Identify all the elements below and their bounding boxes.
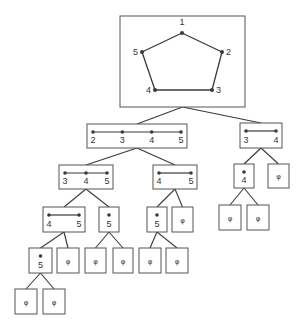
vertex-dot	[39, 254, 43, 258]
tree-link	[157, 232, 177, 248]
vertex-label: 5	[106, 219, 111, 229]
tree-node-path: 45	[43, 207, 85, 232]
empty-set-label: φ	[93, 258, 98, 266]
pentagon-vertex	[153, 88, 157, 92]
tree-node-path: 345	[59, 165, 113, 189]
vertex-label: 5	[38, 260, 43, 270]
empty-set-label: φ	[175, 258, 180, 266]
vertex-label: 4	[273, 135, 278, 145]
tree-node-empty: φ	[219, 205, 241, 230]
tree-node-empty: φ	[43, 289, 65, 314]
node-box	[87, 124, 187, 148]
tree-node-empty: φ	[139, 248, 161, 273]
empty-set-label: φ	[121, 258, 126, 266]
vertex-label: 4	[241, 175, 246, 185]
tree-link	[175, 189, 183, 207]
vertex-label: 5	[178, 135, 183, 145]
pentagon-vertex-label: 3	[216, 85, 221, 95]
tree-node-empty: φ	[57, 248, 79, 273]
node-box	[120, 16, 245, 107]
vertex-dot	[107, 213, 111, 217]
vertex-label: 5	[104, 176, 109, 186]
vertex-dot	[244, 129, 248, 133]
tree-link	[109, 232, 123, 248]
tree-node-point: 5	[147, 207, 167, 232]
tree-node-path: 45	[153, 165, 197, 189]
vertex-dot	[242, 170, 246, 174]
tree-link	[137, 148, 175, 165]
tree-link	[41, 273, 55, 289]
tree-link	[64, 189, 86, 207]
tree-node-point: 5	[99, 207, 119, 232]
vertex-dot	[150, 130, 154, 134]
vertex-label: 3	[120, 135, 125, 145]
vertex-label: 4	[46, 219, 51, 229]
empty-set-label: φ	[148, 258, 153, 266]
tree-node-empty: φ	[113, 248, 133, 273]
tree-node-empty: φ	[172, 207, 193, 232]
vertex-dot	[63, 171, 67, 175]
tree-node-path: 34	[240, 123, 282, 148]
tree-link	[41, 232, 65, 248]
tree-node-empty: φ	[15, 289, 37, 314]
decomposition-tree-diagram: 234534345454φ4555φφφ5φφφφφφφ 12345	[0, 0, 305, 331]
vertex-label: 4	[149, 135, 154, 145]
vertex-dot	[91, 130, 95, 134]
pentagon-vertex	[180, 31, 184, 35]
empty-set-label: φ	[52, 299, 57, 307]
tree-node-point: 4	[234, 164, 254, 188]
vertex-dot	[121, 130, 125, 134]
vertex-label: 5	[154, 219, 159, 229]
empty-set-label: φ	[276, 173, 281, 181]
tree-node-empty: φ	[268, 164, 289, 188]
pentagon-vertex-label: 1	[179, 17, 184, 27]
vertex-dot	[157, 171, 161, 175]
vertex-label: 4	[156, 176, 161, 186]
tree-link	[183, 107, 262, 123]
tree-link	[86, 189, 109, 207]
pentagon-vertex	[140, 50, 144, 54]
tree-link	[157, 189, 175, 207]
pentagon-vertex-label: 4	[146, 85, 151, 95]
tree-link	[96, 232, 110, 248]
empty-set-label: φ	[24, 299, 29, 307]
empty-set-label: φ	[256, 215, 261, 223]
vertex-dot	[274, 129, 278, 133]
tree-link	[261, 148, 279, 164]
vertex-dot	[47, 213, 51, 217]
vertex-label: 4	[83, 176, 88, 186]
vertex-dot	[77, 213, 81, 217]
tree-node-point: 5	[29, 248, 52, 273]
pentagon-vertex	[210, 88, 214, 92]
pentagon-vertex-label: 2	[226, 47, 231, 57]
tree-link	[137, 107, 183, 124]
pentagon-vertex-label: 5	[133, 47, 138, 57]
tree-link	[244, 148, 261, 164]
tree-nodes: 234534345454φ4555φφφ5φφφφφφφ	[15, 16, 289, 314]
vertex-label: 2	[90, 135, 95, 145]
tree-link	[64, 232, 68, 248]
vertex-dot	[179, 130, 183, 134]
empty-set-label: φ	[66, 258, 71, 266]
tree-node-empty: φ	[85, 248, 106, 273]
vertex-label: 3	[243, 135, 248, 145]
vertex-dot	[189, 171, 193, 175]
tree-node-path: 2345	[87, 124, 187, 148]
vertex-dot	[84, 171, 88, 175]
vertex-label: 3	[62, 176, 67, 186]
vertex-dot	[105, 171, 109, 175]
empty-set-label: φ	[180, 217, 185, 225]
vertex-label: 5	[188, 176, 193, 186]
empty-set-label: φ	[228, 215, 233, 223]
tree-link	[26, 273, 41, 289]
tree-link	[86, 148, 137, 165]
tree-node-root	[120, 16, 245, 107]
tree-link	[150, 232, 157, 248]
vertex-dot	[155, 213, 159, 217]
vertex-label: 5	[76, 219, 81, 229]
pentagon-vertex	[220, 50, 224, 54]
tree-link	[230, 188, 244, 205]
tree-link	[244, 188, 258, 205]
tree-node-empty: φ	[247, 205, 269, 230]
tree-node-empty: φ	[166, 248, 188, 273]
